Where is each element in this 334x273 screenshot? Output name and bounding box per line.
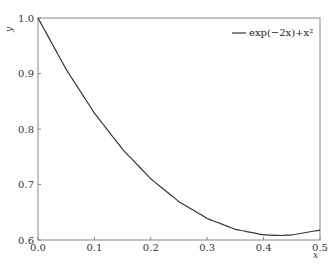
chart-canvas: 0.00.10.20.30.40.5 0.60.70.80.91.0 x y e… xyxy=(0,0,334,273)
x-tick-label: 0.2 xyxy=(143,242,159,253)
series-line xyxy=(38,18,320,236)
y-tick-label: 1.0 xyxy=(18,13,34,24)
x-tick-label: 0.4 xyxy=(256,242,272,253)
legend: exp(−2x)+x² xyxy=(232,27,313,38)
x-tick-label: 0.1 xyxy=(86,242,102,253)
x-axis-label: x xyxy=(313,250,318,260)
y-tick-label: 0.6 xyxy=(18,235,34,246)
x-axis: 0.00.10.20.30.40.5 xyxy=(30,237,328,253)
x-tick-label: 0.3 xyxy=(199,242,215,253)
plot-frame xyxy=(38,18,320,240)
y-tick-label: 0.7 xyxy=(18,179,34,190)
legend-label: exp(−2x)+x² xyxy=(249,27,313,38)
y-tick-label: 0.8 xyxy=(18,124,34,135)
y-axis-label: y xyxy=(4,26,14,33)
y-tick-label: 0.9 xyxy=(18,68,34,79)
